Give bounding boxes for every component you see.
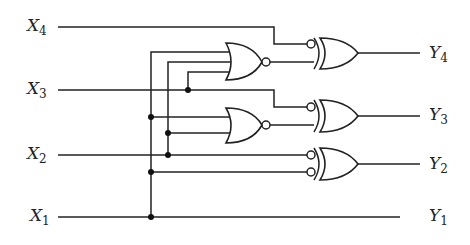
bus-x3 — [188, 72, 230, 90]
bus-x1 — [151, 52, 230, 217]
xor-gate-3-bubble — [307, 103, 315, 111]
input-label-x4: X4 — [27, 17, 47, 37]
xor-gate-2-bubble-b — [307, 168, 315, 176]
junction-dot — [148, 214, 154, 220]
bus-x2 — [168, 62, 231, 155]
circuit-svg — [0, 0, 470, 245]
output-label-y1: Y1 — [429, 207, 448, 227]
xor-gate-2-bubble-a — [307, 151, 315, 159]
junction-dot — [165, 152, 171, 158]
output-label-y4: Y4 — [429, 44, 448, 64]
input-label-x3: X3 — [27, 80, 47, 100]
nor-gate-1 — [226, 43, 262, 80]
xor-gate-4 — [320, 38, 358, 69]
junction-dot — [165, 130, 171, 136]
junction-dot — [148, 114, 154, 120]
xor-gate-2 — [320, 148, 358, 180]
wire-x4 — [58, 27, 307, 44]
output-label-y3: Y3 — [429, 106, 448, 126]
xor-gate-4-bubble — [307, 40, 315, 48]
junction-dot — [185, 87, 191, 93]
logic-circuit-diagram: X4 X3 X2 X1 Y4 Y3 Y2 Y1 — [0, 0, 470, 245]
input-label-x1: X1 — [30, 207, 50, 227]
nor-gate-1-bubble — [262, 58, 270, 66]
nor-gate-2-bubble — [262, 121, 270, 129]
junction-dot — [148, 169, 154, 175]
wire-x3 — [58, 90, 307, 107]
output-label-y2: Y2 — [429, 155, 448, 175]
xor-gate-3 — [320, 100, 358, 132]
input-label-x2: X2 — [27, 145, 47, 165]
nor-gate-2 — [226, 108, 262, 143]
